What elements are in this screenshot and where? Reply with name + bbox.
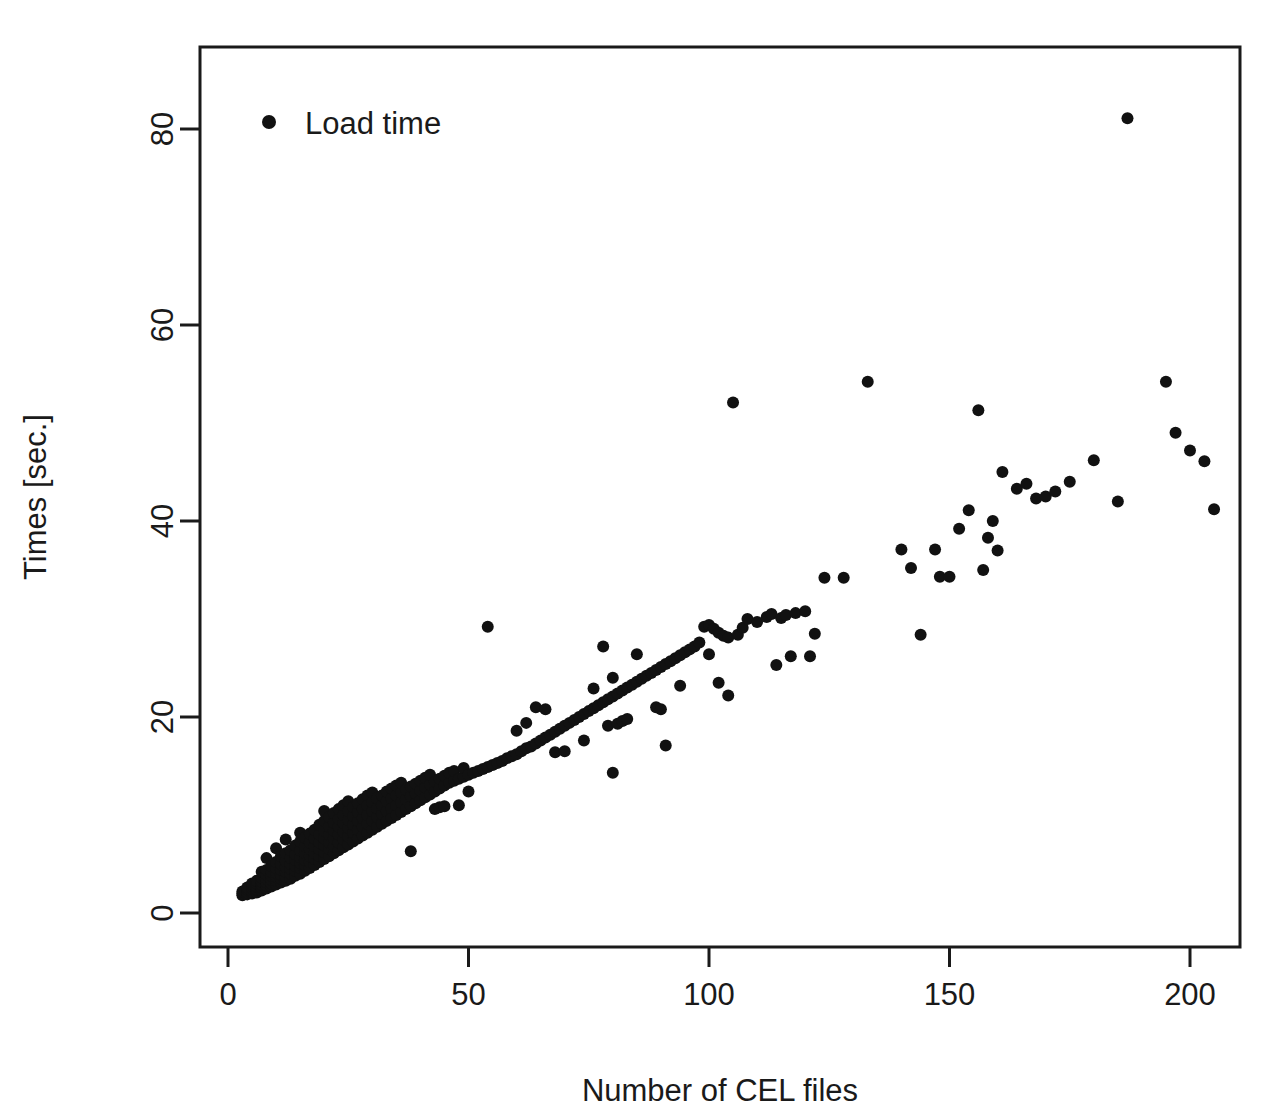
data-point — [809, 628, 821, 640]
data-point — [1064, 476, 1076, 488]
data-point — [1112, 495, 1124, 507]
data-point — [799, 605, 811, 617]
legend-marker-icon — [262, 115, 276, 129]
data-point — [987, 515, 999, 527]
data-point — [631, 648, 643, 660]
y-tick-label: 80 — [145, 112, 180, 146]
data-point — [1088, 454, 1100, 466]
y-axis-title: Times [sec.] — [18, 414, 53, 580]
x-tick-label: 50 — [451, 977, 485, 1012]
data-point — [1170, 427, 1182, 439]
data-point — [482, 621, 494, 633]
data-point — [818, 572, 830, 584]
data-point — [693, 637, 705, 649]
data-point — [674, 680, 686, 692]
data-point — [905, 562, 917, 574]
x-tick-label: 200 — [1164, 977, 1216, 1012]
data-point — [977, 564, 989, 576]
data-point — [862, 376, 874, 388]
data-point — [1184, 444, 1196, 456]
x-tick-label: 0 — [219, 977, 236, 1012]
data-point — [915, 629, 927, 641]
y-tick-label: 0 — [145, 904, 180, 921]
data-point — [996, 466, 1008, 478]
data-point — [953, 523, 965, 535]
data-point — [1049, 486, 1061, 498]
x-tick-label: 100 — [683, 977, 735, 1012]
data-point — [1020, 478, 1032, 490]
data-point — [713, 677, 725, 689]
data-point — [453, 799, 465, 811]
x-tick-label: 150 — [924, 977, 976, 1012]
data-point — [607, 672, 619, 684]
chart-root: 050100150200 020406080 Number of CEL fil… — [0, 0, 1282, 1120]
data-point — [578, 735, 590, 747]
scatter-plot: 050100150200 020406080 Number of CEL fil… — [0, 0, 1282, 1120]
data-point — [1198, 455, 1210, 467]
data-point — [992, 544, 1004, 556]
data-point — [559, 745, 571, 757]
data-point — [520, 717, 532, 729]
data-point — [1121, 112, 1133, 124]
data-point — [929, 543, 941, 555]
y-tick-label: 40 — [145, 504, 180, 538]
data-point — [1160, 376, 1172, 388]
data-point — [982, 532, 994, 544]
legend-label: Load time — [305, 106, 441, 141]
y-tick-label: 20 — [145, 700, 180, 734]
data-point — [655, 703, 667, 715]
data-point — [703, 648, 715, 660]
data-point — [660, 739, 672, 751]
data-point — [588, 683, 600, 695]
data-point — [539, 703, 551, 715]
data-point — [405, 845, 417, 857]
data-point — [463, 785, 475, 797]
x-axis-title: Number of CEL files — [582, 1073, 858, 1108]
data-point — [785, 650, 797, 662]
data-point — [895, 543, 907, 555]
data-point — [770, 659, 782, 671]
data-point — [804, 650, 816, 662]
data-point — [972, 404, 984, 416]
data-point — [597, 640, 609, 652]
data-point — [722, 689, 734, 701]
data-point — [438, 800, 450, 812]
data-point — [1208, 503, 1220, 515]
data-point — [944, 571, 956, 583]
data-point — [727, 396, 739, 408]
y-tick-label: 60 — [145, 308, 180, 342]
data-point — [607, 767, 619, 779]
plot-background — [0, 0, 1282, 1120]
data-point — [511, 725, 523, 737]
data-point — [963, 504, 975, 516]
data-point — [621, 713, 633, 725]
data-point — [838, 572, 850, 584]
